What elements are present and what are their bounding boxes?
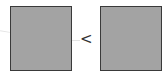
faint-guide-line xyxy=(0,30,10,33)
connector-line xyxy=(72,40,80,41)
left-gray-square xyxy=(10,6,72,71)
less-than-symbol: < xyxy=(80,32,93,47)
right-gray-square xyxy=(100,6,162,71)
